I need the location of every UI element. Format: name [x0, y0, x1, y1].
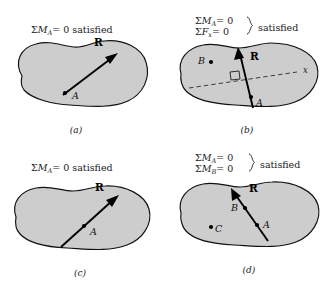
moment-symbol: M: [201, 15, 212, 26]
resultant-label: R: [94, 36, 103, 48]
point-b-label: B: [230, 202, 238, 213]
point-a-dot: [82, 224, 86, 228]
point-a-label: A: [89, 226, 97, 237]
equals-zero-2: = 0: [216, 163, 233, 174]
moment-symbol-2: M: [201, 163, 212, 174]
equals-zero: = 0: [216, 15, 233, 26]
point-b-dot: [243, 206, 247, 210]
panel-b: ΣMA= 0 ΣFx= 0 satisfied x A R: [167, 0, 333, 143]
status-text: satisfied: [260, 159, 300, 170]
condition-brace: [249, 154, 255, 171]
resultant-label: R: [249, 182, 258, 194]
point-a-label: A: [255, 97, 263, 108]
svg-text:ΣFx= 0: ΣFx= 0: [195, 26, 229, 39]
resultant-label: R: [95, 181, 104, 193]
equals-zero: = 0: [52, 162, 69, 173]
point-a-label: A: [262, 219, 270, 230]
status-text: satisfied: [72, 162, 112, 173]
panel-b-condition-block: ΣMA= 0 ΣFx= 0 satisfied: [195, 15, 298, 39]
rigid-body-outline: [18, 41, 147, 107]
moment-symbol: M: [37, 162, 48, 173]
point-a-dot: [249, 95, 253, 99]
point-b-dot: [209, 60, 213, 64]
svg-text:ΣMA= 0 satisfied: ΣMA= 0 satisfied: [31, 162, 113, 175]
panel-caption: (a): [70, 125, 83, 135]
moment-symbol: M: [37, 24, 48, 35]
panel-d: ΣMA= 0 ΣMB= 0 satisfied A B C R (d): [167, 143, 333, 286]
panel-c: ΣMA= 0 satisfied A R (c): [0, 143, 166, 286]
equilibrium-figure: ΣMA= 0 satisfied A R (a) ΣMA= 0 Σ: [0, 0, 333, 286]
point-a-dot: [255, 223, 259, 227]
point-c-dot: [209, 225, 213, 229]
x-axis-label: x: [303, 65, 308, 75]
panel-c-condition-line: ΣMA= 0 satisfied: [31, 162, 113, 175]
equals-zero: = 0: [52, 24, 69, 35]
point-b-label: B: [197, 55, 205, 66]
condition-brace: [247, 17, 253, 34]
panel-caption: (b): [241, 125, 254, 135]
point-a-label: A: [71, 90, 79, 101]
rigid-body-outline: [15, 186, 150, 250]
panel-caption: (c): [74, 268, 87, 278]
panel-d-condition-block: ΣMA= 0 ΣMB= 0 satisfied: [195, 152, 300, 176]
equals-zero: = 0: [216, 152, 233, 163]
panel-a: ΣMA= 0 satisfied A R (a): [0, 0, 166, 143]
resultant-label: R: [250, 50, 259, 62]
panel-caption: (d): [243, 265, 256, 275]
point-c-label: C: [215, 223, 223, 234]
status-text: satisfied: [258, 22, 298, 33]
point-a-dot: [63, 91, 67, 95]
moment-symbol: M: [201, 152, 212, 163]
status-text: satisfied: [72, 24, 112, 35]
equals-zero-2: = 0: [212, 26, 229, 37]
